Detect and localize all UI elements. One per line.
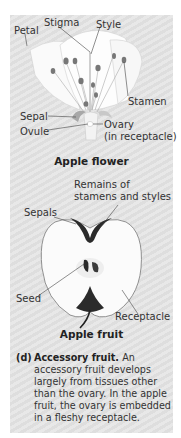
label-ovule: Ovule	[20, 126, 49, 137]
apple-flower-title: Apple flower	[10, 155, 173, 167]
label-ovary-note: (in receptacle)	[104, 131, 177, 142]
caption-body: Accessory fruit. An accessory fruit deve…	[16, 352, 171, 424]
caption-heading: Accessory fruit.	[34, 352, 122, 363]
label-remains-line1: Remains of	[74, 179, 130, 190]
label-receptacle: Receptacle	[115, 311, 170, 322]
apple-fruit-title: Apple fruit	[10, 328, 173, 340]
label-style: Style	[96, 19, 121, 30]
label-sepals: Sepals	[24, 207, 57, 218]
label-seed: Seed	[16, 293, 41, 304]
label-stigma: Stigma	[44, 17, 79, 28]
label-remains-line2: stamens and styles	[74, 191, 171, 202]
figure-caption: (d) Accessory fruit. An accessory fruit …	[16, 352, 171, 424]
label-petal: Petal	[14, 25, 39, 36]
apple-fruit-drawing	[38, 205, 141, 328]
label-sepal: Sepal	[20, 111, 48, 122]
label-stamen: Stamen	[128, 96, 167, 107]
label-ovary: Ovary	[104, 119, 134, 130]
caption-tag: (d)	[16, 352, 32, 363]
